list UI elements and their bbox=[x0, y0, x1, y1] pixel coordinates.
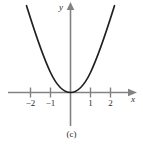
x-tick-label-pos2: 2 bbox=[104, 99, 118, 108]
y-axis-label: y bbox=[59, 3, 63, 12]
x-tick-label-neg2: −2 bbox=[24, 99, 38, 108]
x-tick-label-pos1: 1 bbox=[84, 99, 98, 108]
x-tick-label-neg1: −1 bbox=[44, 99, 58, 108]
parabola-figure: y x −2 −1 1 2 (c) bbox=[0, 0, 143, 147]
figure-caption: (c) bbox=[0, 130, 143, 139]
plot-area bbox=[0, 0, 143, 147]
y-axis-arrow-icon bbox=[67, 2, 75, 10]
x-axis-label: x bbox=[131, 95, 135, 104]
